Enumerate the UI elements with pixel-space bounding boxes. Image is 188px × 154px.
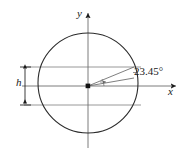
- y-axis-label: y: [77, 8, 82, 19]
- circle-tilt-figure: y x h 23.45°: [0, 0, 188, 154]
- x-axis-label: x: [168, 86, 173, 97]
- angle-label: 23.45°: [134, 66, 163, 77]
- center-point: [86, 84, 91, 89]
- figure-svg: [0, 0, 188, 154]
- tilt-ray: [88, 67, 134, 86]
- reference-ray: [88, 78, 134, 86]
- height-label: h: [16, 77, 22, 88]
